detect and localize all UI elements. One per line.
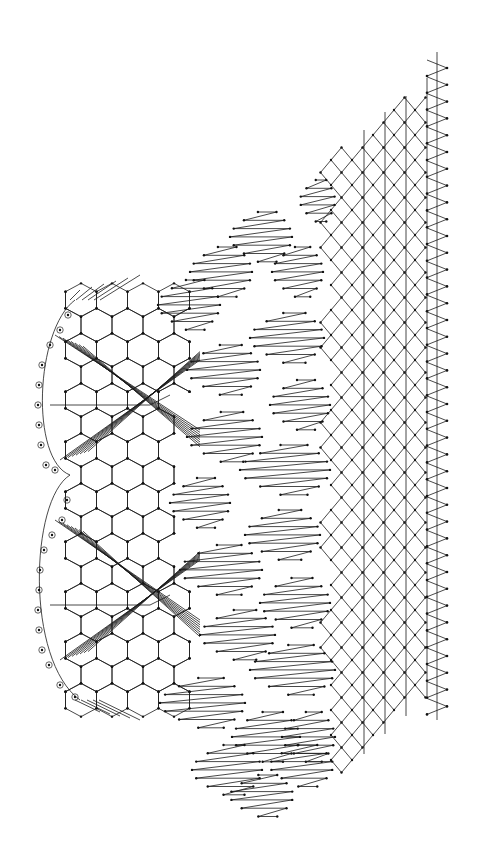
cloth-stitch-fans — [157, 179, 336, 818]
circled-pin-holes — [35, 312, 78, 700]
headside-honeycomb — [39, 275, 200, 720]
lace-pricking-diagram — [0, 0, 485, 847]
footside-edge — [426, 52, 449, 720]
